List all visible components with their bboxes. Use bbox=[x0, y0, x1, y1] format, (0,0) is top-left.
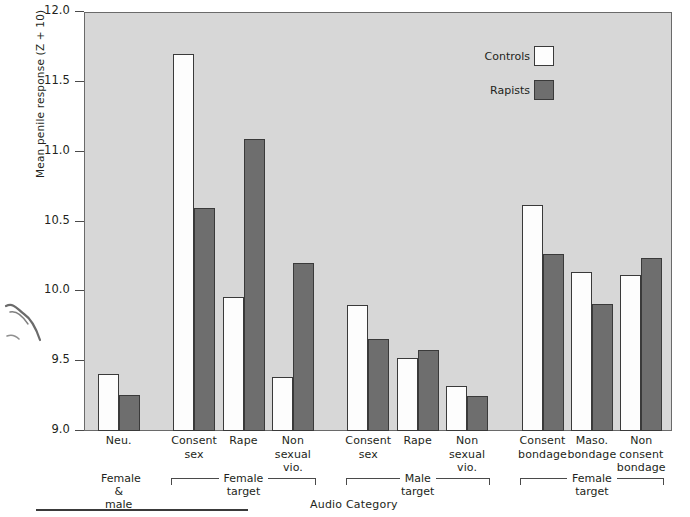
bar-rapists-6 bbox=[467, 396, 488, 431]
x-tick-label-line: Non bbox=[255, 434, 331, 448]
x-group-sublabel: target bbox=[171, 485, 315, 498]
x-group-label-text: Female bbox=[567, 472, 617, 485]
bar-rapists-1 bbox=[194, 208, 215, 431]
x-group-label-text: Female bbox=[96, 472, 146, 485]
bar-rapists-2 bbox=[244, 139, 265, 431]
legend-item-controls: Controls bbox=[452, 46, 572, 80]
bar-rapists-4 bbox=[368, 339, 389, 431]
legend-label: Rapists bbox=[490, 84, 530, 97]
x-group-sublabel: target bbox=[346, 485, 490, 498]
x-tick-label-line: sex bbox=[330, 448, 406, 462]
legend-swatch-rapists-icon bbox=[534, 80, 554, 100]
legend-label: Controls bbox=[485, 50, 531, 63]
bar-rapists-3 bbox=[293, 263, 314, 431]
y-tick-label: 11.0 bbox=[44, 143, 70, 157]
x-tick-label-3: Nonsexualvio. bbox=[255, 434, 331, 475]
x-tick-label-line: Neu. bbox=[81, 434, 157, 448]
y-tick-mark bbox=[75, 221, 84, 222]
x-group-label-text: Male bbox=[400, 472, 436, 485]
x-tick-label-line: Non bbox=[429, 434, 505, 448]
bar-controls-0 bbox=[98, 374, 119, 431]
bar-controls-8 bbox=[571, 272, 592, 431]
x-tick-label-6: Nonsexualvio. bbox=[429, 434, 505, 475]
x-group-label-text: Female bbox=[219, 472, 269, 485]
y-axis-title: Mean penile response (Z + 10) bbox=[34, 18, 46, 178]
bar-rapists-0 bbox=[119, 395, 140, 431]
y-tick-mark bbox=[75, 81, 84, 82]
x-axis-title: Audio Category bbox=[310, 498, 398, 511]
y-tick-label: 9.0 bbox=[51, 422, 70, 436]
y-tick-mark bbox=[75, 360, 84, 361]
y-tick-label: 10.5 bbox=[44, 213, 70, 227]
y-tick-label: 9.5 bbox=[51, 352, 70, 366]
page-rule bbox=[36, 509, 248, 511]
bar-rapists-9 bbox=[641, 258, 662, 431]
legend: ControlsRapists bbox=[452, 46, 572, 114]
scan-artifact-mark bbox=[4, 292, 44, 354]
x-group-sublabel: target bbox=[520, 485, 664, 498]
bar-controls-4 bbox=[347, 305, 368, 431]
bar-controls-9 bbox=[620, 275, 641, 431]
x-group-label: Female bbox=[520, 472, 664, 485]
bar-rapists-7 bbox=[543, 254, 564, 431]
x-tick-label-9: Nonconsentbondage bbox=[603, 434, 679, 475]
y-tick-mark bbox=[75, 151, 84, 152]
y-tick-mark bbox=[75, 290, 84, 291]
legend-swatch-controls-icon bbox=[534, 46, 554, 66]
x-tick-label-0: Neu. bbox=[81, 434, 157, 448]
x-tick-label-line: sexual bbox=[429, 448, 505, 462]
x-group-label: Female bbox=[171, 472, 315, 485]
bar-rapists-8 bbox=[592, 304, 613, 431]
bar-controls-3 bbox=[272, 377, 293, 431]
x-tick-label-line: sexual bbox=[255, 448, 331, 462]
x-group-label: Male bbox=[346, 472, 490, 485]
x-group-sublabel: & bbox=[96, 485, 141, 498]
x-tick-label-line: consent bbox=[603, 448, 679, 462]
x-group-label: Female bbox=[96, 472, 141, 485]
bar-chart-figure: 9.09.510.010.511.011.512.0 Mean penile r… bbox=[0, 0, 690, 517]
bar-controls-6 bbox=[446, 386, 467, 431]
bar-controls-1 bbox=[173, 54, 194, 431]
y-tick-label: 11.5 bbox=[44, 73, 70, 87]
bar-rapists-5 bbox=[418, 350, 439, 431]
y-tick-mark bbox=[75, 430, 84, 431]
bar-controls-2 bbox=[223, 297, 244, 431]
y-tick-label: 12.0 bbox=[44, 3, 70, 17]
bar-controls-7 bbox=[522, 205, 543, 431]
bar-controls-5 bbox=[397, 358, 418, 431]
bars-layer bbox=[84, 12, 672, 431]
x-tick-label-line: sex bbox=[156, 448, 232, 462]
y-tick-label: 10.0 bbox=[44, 282, 70, 296]
y-tick-mark bbox=[75, 11, 84, 12]
legend-item-rapists: Rapists bbox=[452, 80, 572, 114]
x-tick-label-line: Non bbox=[603, 434, 679, 448]
